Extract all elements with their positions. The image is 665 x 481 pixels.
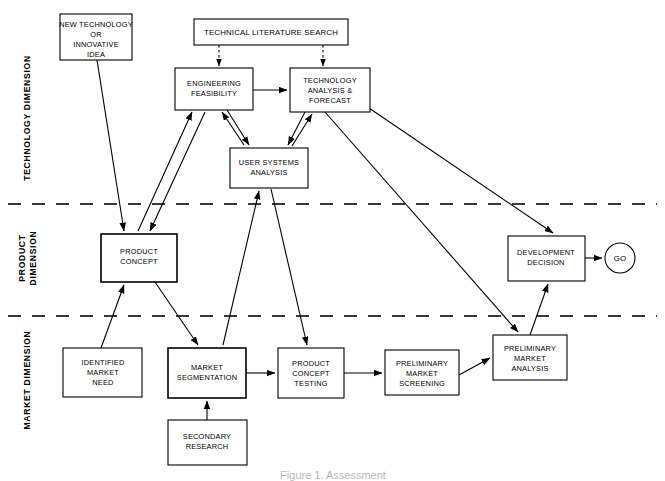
node-technology-analysis-forecast[interactable]: TECHNOLOGY ANALYSIS & FORECAST [290,68,370,112]
edge-user-systems-to-engineering [222,112,244,145]
node-product-concept-line-2: CONCEPT [120,257,158,266]
edge-engineering-to-user-systems [227,110,249,145]
edge-market-segmentation-to-user-systems [223,191,259,345]
node-new-technology-line-3: INNOVATIVE [73,40,119,49]
node-user-systems-analysis[interactable]: USER SYSTEMS ANALYSIS [230,148,308,188]
node-development-decision-line-2: DECISION [527,258,564,267]
dimension-label-product-line1: PRODUCT [17,234,27,281]
node-go[interactable]: GO [605,243,635,273]
dimension-labels: TECHNOLOGY DIMENSION PRODUCT DIMENSION M… [17,55,38,429]
dimension-label-product-line2: DIMENSION [28,230,38,285]
node-product-concept-testing-line-2: CONCEPT [292,369,330,378]
node-technology-analysis-forecast-line-2: ANALYSIS & [308,86,353,95]
edge-product-concept-to-market-segmentation [155,282,198,345]
node-preliminary-market-analysis-line-3: ANALYSIS [511,364,548,373]
edge-preliminary-analysis-to-development-decision [530,284,548,335]
node-preliminary-market-analysis-line-2: MARKET [514,354,546,363]
node-identified-market-need-line-2: MARKET [87,368,119,377]
node-user-systems-analysis-line-2: ANALYSIS [250,168,287,177]
node-product-concept-testing-line-1: PRODUCT [292,359,330,368]
node-go-label: GO [614,254,627,263]
edge-new-technology-to-product-concept [97,60,124,231]
node-market-segmentation-line-1: MARKET [191,363,223,372]
edge-tech-analysis-to-development-decision [366,106,553,233]
node-preliminary-market-screening[interactable]: PRELIMINARY MARKET SCREENING [385,350,459,395]
node-preliminary-market-analysis-line-1: PRELIMINARY [504,344,556,353]
edge-engineering-to-product-concept [150,112,205,231]
edge-user-systems-to-product-concept-testing [271,189,307,345]
node-new-technology-line-4: IDEA [87,50,105,59]
edge-screening-to-preliminary-analysis [459,358,490,375]
node-new-technology-line-1: NEW TECHNOLOGY [59,20,133,29]
edge-tech-analysis-to-preliminary-analysis [325,112,518,332]
node-engineering-feasibility-line-1: ENGINEERING [187,79,241,88]
node-identified-market-need-line-1: IDENTIFIED [81,358,124,367]
node-technology-analysis-forecast-line-3: FORECAST [309,96,351,105]
edge-product-concept-to-engineering [138,112,192,231]
diagram-canvas: TECHNOLOGY DIMENSION PRODUCT DIMENSION M… [0,0,665,481]
node-new-technology-line-2: OR [90,30,102,39]
node-user-systems-analysis-line-1: USER SYSTEMS [239,158,299,167]
node-product-concept-testing[interactable]: PRODUCT CONCEPT TESTING [278,348,344,398]
dimension-label-technology: TECHNOLOGY DIMENSION [22,55,32,181]
figure-caption: Figure 1. Assessment [280,469,386,481]
node-preliminary-market-analysis[interactable]: PRELIMINARY MARKET ANALYSIS [493,335,567,380]
node-secondary-research-line-1: SECONDARY [183,432,231,441]
node-secondary-research-line-2: RESEARCH [186,442,229,451]
node-market-segmentation-line-2: SEGMENTATION [177,373,237,382]
node-development-decision-line-1: DEVELOPMENT [517,248,575,257]
node-preliminary-market-screening-line-3: SCREENING [399,379,445,388]
node-product-concept-testing-line-3: TESTING [294,379,327,388]
node-market-segmentation[interactable]: MARKET SEGMENTATION [168,348,246,398]
node-preliminary-market-screening-line-1: PRELIMINARY [396,359,448,368]
dimension-label-market: MARKET DIMENSION [22,330,32,429]
node-engineering-feasibility[interactable]: ENGINEERING FEASIBILITY [175,68,253,110]
node-technology-analysis-forecast-line-1: TECHNOLOGY [303,76,357,85]
node-identified-market-need-line-3: NEED [92,378,113,387]
node-new-technology[interactable]: NEW TECHNOLOGY OR INNOVATIVE IDEA [59,14,133,60]
node-preliminary-market-screening-line-2: MARKET [406,369,438,378]
node-product-concept-line-1: PRODUCT [120,247,158,256]
node-technical-literature-search[interactable]: TECHNICAL LITERATURE SEARCH [194,19,348,45]
node-identified-market-need[interactable]: IDENTIFIED MARKET NEED [63,348,142,397]
node-development-decision[interactable]: DEVELOPMENT DECISION [508,236,585,281]
node-engineering-feasibility-line-2: FEASIBILITY [191,89,237,98]
node-secondary-research[interactable]: SECONDARY RESEARCH [168,420,247,465]
node-technical-literature-search-line-1: TECHNICAL LITERATURE SEARCH [204,28,338,37]
node-product-concept[interactable]: PRODUCT CONCEPT [101,234,177,282]
nodes: NEW TECHNOLOGY OR INNOVATIVE IDEA TECHNI… [59,14,635,465]
flow-diagram: TECHNOLOGY DIMENSION PRODUCT DIMENSION M… [0,0,665,481]
